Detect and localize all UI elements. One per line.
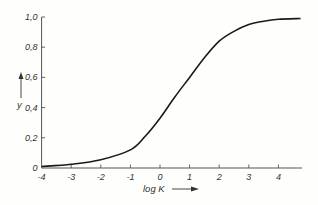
x-tick-label: 3 <box>246 172 251 182</box>
x-axis-label-group: log K <box>143 183 199 194</box>
y-tick-label: 0,4 <box>25 103 38 113</box>
arrow-up-icon <box>19 72 24 79</box>
arrow-right-icon <box>191 187 199 192</box>
x-tick-label: -3 <box>67 172 75 182</box>
axes <box>42 17 302 168</box>
x-tick-label: 2 <box>216 172 222 182</box>
x-axis-ticks: -4-3-2-101234 <box>38 165 281 183</box>
x-tick-label: 0 <box>157 172 162 182</box>
y-axis-label: y <box>16 99 23 110</box>
x-tick-label: 4 <box>276 172 281 182</box>
x-tick-label: -4 <box>38 172 46 182</box>
y-tick-label: 1,0 <box>25 12 38 22</box>
y-tick-label: 0,8 <box>25 42 38 52</box>
x-tick-label: -1 <box>126 172 134 182</box>
y-tick-label: 0,2 <box>25 133 38 143</box>
x-tick-label: 1 <box>187 172 192 182</box>
data-curve <box>42 19 301 167</box>
chart: -4-3-2-101234 00,20,40,60,81,0 y log K <box>0 0 318 205</box>
x-tick-label: -2 <box>97 172 105 182</box>
x-axis-label: log K <box>143 183 165 194</box>
y-tick-label: 0,6 <box>25 72 38 82</box>
y-axis-label-group: y <box>16 72 24 110</box>
y-tick-label: 0 <box>33 163 38 173</box>
